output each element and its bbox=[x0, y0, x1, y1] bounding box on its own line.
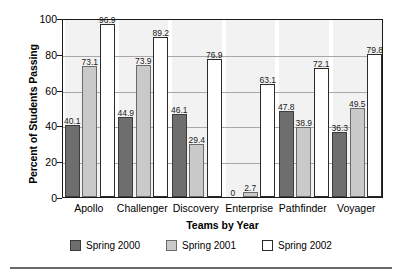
bar bbox=[172, 114, 187, 197]
plot-inner: 40.173.196.944.973.989.246.129.476.902.7… bbox=[63, 20, 382, 197]
bar bbox=[189, 144, 204, 197]
bar-value-label: 36.3 bbox=[331, 123, 348, 133]
bar-value-label: 0 bbox=[230, 188, 235, 198]
legend-item: Spring 2001 bbox=[166, 240, 236, 251]
bar-value-label: 47.8 bbox=[278, 102, 295, 112]
bar bbox=[100, 24, 115, 197]
y-axis-tick-label: 100 bbox=[23, 13, 57, 25]
bar-value-label: 73.1 bbox=[81, 57, 98, 67]
bar bbox=[279, 111, 294, 197]
bar bbox=[118, 117, 133, 197]
bar-value-label: 2.7 bbox=[244, 183, 256, 193]
bar bbox=[260, 84, 275, 197]
y-axis-tick-label: 60 bbox=[23, 85, 57, 97]
bar bbox=[314, 68, 329, 197]
x-axis-title: Teams by Year bbox=[62, 219, 383, 231]
y-axis-tick-mark bbox=[57, 198, 62, 199]
x-axis-tick-label: Apollo bbox=[74, 202, 103, 214]
bar-value-label: 29.4 bbox=[188, 135, 205, 145]
y-axis-tick-label: 0 bbox=[23, 192, 57, 204]
bar-value-label: 73.9 bbox=[135, 56, 152, 66]
bar-chart-figure: Percent of Students Passing 020406080100… bbox=[0, 0, 402, 278]
y-axis-tick-label: 80 bbox=[23, 49, 57, 61]
y-axis-tick-label: 20 bbox=[23, 156, 57, 168]
bar bbox=[296, 127, 311, 197]
bar-value-label: 76.9 bbox=[206, 50, 223, 60]
x-axis-tick-label: Pathfinder bbox=[279, 202, 327, 214]
x-axis-tick-label: Voyager bbox=[337, 202, 376, 214]
y-axis-title: Percent of Students Passing bbox=[27, 19, 39, 209]
bar-value-label: 49.5 bbox=[349, 99, 366, 109]
legend-swatch bbox=[166, 240, 177, 251]
bar bbox=[207, 59, 222, 197]
plot-area: 40.173.196.944.973.989.246.129.476.902.7… bbox=[62, 19, 383, 198]
bar-value-label: 72.1 bbox=[313, 59, 330, 69]
y-axis-tick-label: 40 bbox=[23, 120, 57, 132]
x-axis-tick-label: Discovery bbox=[173, 202, 219, 214]
bar-value-label: 89.2 bbox=[152, 28, 169, 38]
bar-value-label: 44.9 bbox=[117, 108, 134, 118]
bar bbox=[153, 37, 168, 197]
legend-item: Spring 2002 bbox=[262, 240, 332, 251]
bar-value-label: 40.1 bbox=[64, 116, 81, 126]
x-axis-tick-label: Challenger bbox=[117, 202, 168, 214]
legend-item: Spring 2000 bbox=[70, 240, 140, 251]
legend-label: Spring 2002 bbox=[278, 240, 332, 251]
legend-label: Spring 2001 bbox=[182, 240, 236, 251]
bottom-divider bbox=[10, 267, 392, 269]
bar-value-label: 79.8 bbox=[366, 45, 383, 55]
bar-value-label: 38.9 bbox=[295, 118, 312, 128]
bar bbox=[136, 65, 151, 197]
bar bbox=[65, 125, 80, 197]
legend-label: Spring 2000 bbox=[86, 240, 140, 251]
legend-swatch bbox=[262, 240, 273, 251]
chart-legend: Spring 2000Spring 2001Spring 2002 bbox=[0, 240, 402, 251]
legend-swatch bbox=[70, 240, 81, 251]
bar-value-label: 63.1 bbox=[259, 75, 276, 85]
bar bbox=[332, 132, 347, 197]
bar bbox=[350, 108, 365, 197]
x-axis-tick-label: Enterprise bbox=[225, 202, 273, 214]
bar-value-label: 46.1 bbox=[171, 105, 188, 115]
bar-value-label: 96.9 bbox=[99, 15, 116, 25]
bar bbox=[82, 66, 97, 197]
bar bbox=[367, 54, 382, 197]
